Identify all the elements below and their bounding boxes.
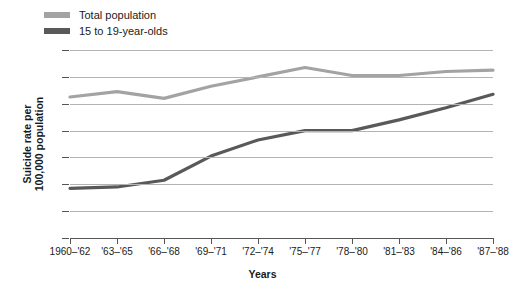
x-axis-tick-label: '87–'88	[477, 246, 509, 257]
y-axis-title: Suicide rate per 100,000 population	[21, 59, 45, 229]
x-axis-tick-label: '84–'86	[430, 246, 462, 257]
y-axis-tick	[62, 157, 69, 158]
plot-area: 024681012141960–'62'63–'65'66–'68'69–'71…	[70, 50, 493, 238]
gridline	[70, 104, 493, 105]
x-axis-tick-label: 1960–'62	[50, 246, 91, 257]
x-axis-tick	[117, 238, 118, 244]
x-axis-tick	[211, 238, 212, 244]
y-axis-tick	[62, 238, 69, 239]
y-axis-title-line1: Suicide rate per	[21, 59, 33, 229]
x-axis-tick	[164, 238, 165, 244]
legend-item-teens: 15 to 19-year-olds	[44, 24, 168, 38]
series-line-teens	[70, 94, 493, 188]
x-axis-tick-label: '81–'83	[383, 246, 415, 257]
y-axis-title-line2: 100,000 population	[33, 59, 45, 229]
x-axis-tick	[258, 238, 259, 244]
x-axis-tick	[70, 238, 71, 244]
series-line-total-population	[70, 67, 493, 98]
gridline	[70, 131, 493, 132]
x-axis-tick	[446, 238, 447, 244]
gridline	[70, 211, 493, 212]
x-axis-tick-label: '72–'74	[242, 246, 274, 257]
gridline	[70, 77, 493, 78]
y-axis-tick	[62, 184, 69, 185]
x-axis-tick-label: '63–'65	[101, 246, 133, 257]
gridline	[70, 184, 493, 185]
x-axis-tick	[493, 238, 494, 244]
x-axis-tick	[399, 238, 400, 244]
x-axis-tick-label: '75–'77	[289, 246, 321, 257]
x-axis-tick-label: '69–'71	[195, 246, 227, 257]
series-layer	[70, 50, 493, 238]
legend-label-teens: 15 to 19-year-olds	[79, 26, 168, 37]
x-axis-tick-label: '66–'68	[148, 246, 180, 257]
y-axis-tick	[62, 104, 69, 105]
x-axis-tick-label: '78–'80	[336, 246, 368, 257]
legend-swatch-teens	[44, 28, 70, 34]
chart-legend: Total population 15 to 19-year-olds	[44, 8, 168, 40]
x-axis-tick	[305, 238, 306, 244]
y-axis-tick	[62, 131, 69, 132]
y-axis-tick	[62, 77, 69, 78]
y-axis-tick	[62, 211, 69, 212]
legend-swatch-total-population	[44, 12, 70, 18]
legend-item-total-population: Total population	[44, 8, 168, 22]
y-axis-tick	[62, 50, 69, 51]
gridline	[70, 157, 493, 158]
chart-container: Total population 15 to 19-year-olds Suic…	[0, 0, 525, 288]
legend-label-total-population: Total population	[79, 10, 156, 21]
x-axis-tick	[352, 238, 353, 244]
x-axis-title: Years	[0, 268, 525, 280]
gridline	[70, 50, 493, 51]
x-axis-line	[70, 238, 493, 239]
